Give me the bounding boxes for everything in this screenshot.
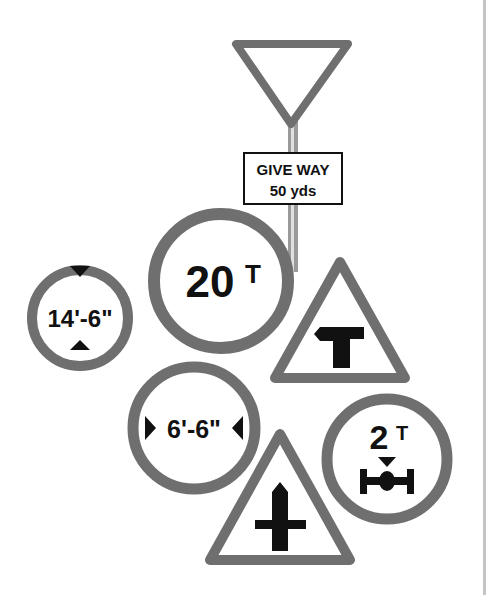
plate-line-1: GIVE WAY xyxy=(257,161,330,178)
axle-weight-unit: T xyxy=(396,422,408,444)
axle-weight-sign: 2 T xyxy=(327,399,447,519)
weight-number: 20 xyxy=(186,257,235,306)
weight-unit: T xyxy=(245,259,261,289)
plate-line-2: 50 yds xyxy=(270,182,317,199)
axle-weight-number: 2 xyxy=(370,418,389,456)
road-signs-illustration: GIVE WAY 50 yds 14'-6" 20 T 6'-6" 2 T xyxy=(0,0,487,595)
give-way-triangle-icon xyxy=(236,44,348,124)
max-height-sign: 14'-6" xyxy=(32,266,128,366)
t-junction-warning-sign xyxy=(275,262,405,378)
weight-limit-sign: 20 T xyxy=(154,214,288,348)
max-width-sign: 6'-6" xyxy=(133,367,255,489)
width-label: 6'-6" xyxy=(167,415,221,443)
height-label: 14'-6" xyxy=(47,305,112,332)
